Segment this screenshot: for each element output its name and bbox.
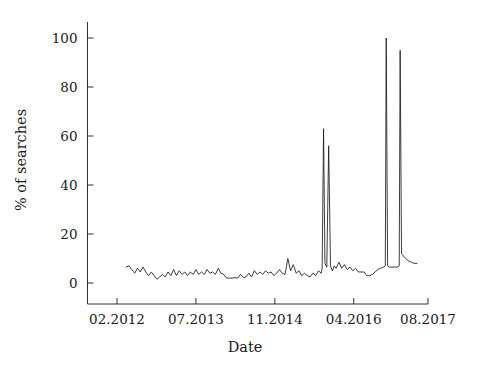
x-tick-label: 02.2012 [89, 311, 145, 327]
y-tick-label: 100 [52, 30, 78, 46]
search-trend-line-chart: 02.201207.201311.201404.201608.2017 0204… [0, 0, 480, 373]
x-tick-label: 11.2014 [247, 311, 303, 327]
x-axis-title: Date [228, 339, 263, 355]
y-tick-label: 80 [60, 79, 77, 95]
search-percentage-line [126, 38, 417, 279]
tick-marks-group [88, 38, 429, 304]
chart-figure: 02.201207.201311.201404.201608.2017 0204… [0, 0, 480, 373]
data-series-group [126, 38, 417, 279]
axes-group [88, 22, 429, 304]
x-tick-label: 04.2016 [326, 311, 382, 327]
x-tick-label: 07.2013 [168, 311, 224, 327]
y-tick-label: 60 [60, 128, 77, 144]
x-axis-tick-labels: 02.201207.201311.201404.201608.2017 [89, 311, 456, 327]
y-tick-label: 0 [69, 275, 78, 291]
y-axis-tick-labels: 020406080100 [52, 30, 78, 291]
y-tick-label: 20 [60, 226, 77, 242]
y-axis-title: % of searches [13, 109, 29, 211]
x-tick-label: 08.2017 [400, 311, 456, 327]
y-tick-label: 40 [60, 177, 77, 193]
